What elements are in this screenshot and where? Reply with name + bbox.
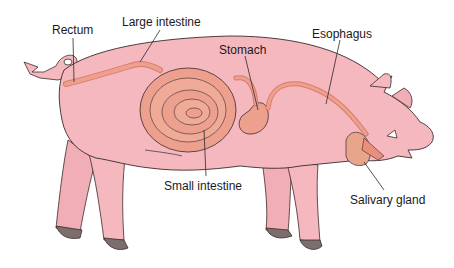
label-large-intestine: Large intestine: [122, 15, 201, 29]
pig-digestive-diagram: Rectum Large intestine Stomach Esophagus…: [0, 0, 454, 268]
label-salivary-gland: Salivary gland: [350, 193, 425, 207]
label-rectum: Rectum: [52, 23, 93, 37]
hoof: [104, 238, 128, 250]
intestine-coil: [140, 68, 236, 152]
front-legs: [262, 160, 322, 249]
hoof: [300, 240, 322, 249]
label-esophagus: Esophagus: [312, 27, 372, 41]
label-small-intestine: Small intestine: [164, 179, 242, 193]
label-stomach: Stomach: [219, 43, 266, 57]
